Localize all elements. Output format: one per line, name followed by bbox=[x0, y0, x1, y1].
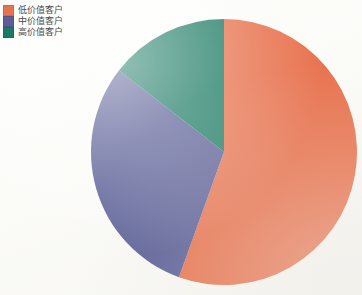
chart-legend: 低价值客户 中价值客户 高价值客户 bbox=[3, 5, 63, 38]
legend-item-medium-value[interactable]: 中价值客户 bbox=[3, 16, 63, 27]
pie-chart-figure: 低价值客户 中价值客户 高价值客户 bbox=[0, 0, 362, 295]
legend-swatch-low-value bbox=[3, 5, 14, 16]
pie-slice-group bbox=[91, 19, 357, 285]
legend-swatch-medium-value bbox=[3, 16, 14, 27]
legend-item-low-value[interactable]: 低价值客户 bbox=[3, 5, 63, 16]
legend-label-high-value: 高价值客户 bbox=[18, 27, 63, 38]
pie-chart-canvas bbox=[0, 0, 362, 295]
legend-swatch-high-value bbox=[3, 27, 14, 38]
legend-label-medium-value: 中价值客户 bbox=[18, 16, 63, 27]
legend-item-high-value[interactable]: 高价值客户 bbox=[3, 27, 63, 38]
legend-label-low-value: 低价值客户 bbox=[18, 5, 63, 16]
